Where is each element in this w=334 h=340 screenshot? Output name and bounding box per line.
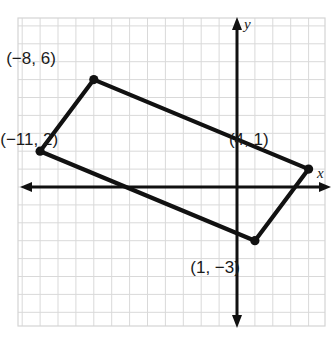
vertex-dot	[304, 165, 313, 174]
vertex-coordinate-label: (1, −3)	[190, 258, 240, 277]
y-axis-label: y	[242, 16, 251, 32]
vertex-dot	[250, 236, 259, 245]
vertex-coordinate-label: (−11, 2)	[0, 130, 58, 149]
vertex-coordinate-label: (4, 1)	[229, 130, 269, 149]
vertex-coordinate-label: (−8, 6)	[6, 49, 56, 68]
x-axis-label: x	[316, 165, 324, 181]
vertex-dot	[89, 75, 98, 84]
coordinate-plane-figure: (−8, 6)(4, 1)(1, −3)(−11, 2) y x	[0, 0, 334, 340]
